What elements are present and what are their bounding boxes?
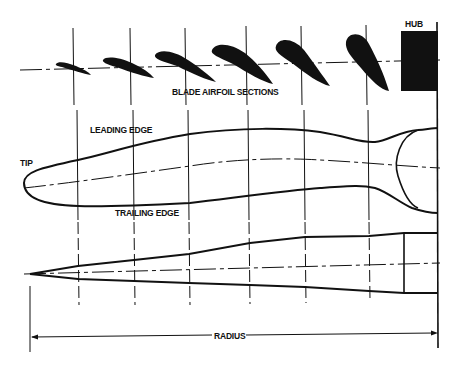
- radius-label: RADIUS: [214, 331, 246, 341]
- leading-edge-curve: [24, 128, 438, 183]
- planform-view: [24, 128, 440, 213]
- propeller-blade-diagram: HUB BLADE AIRFOIL SECTIONS LEADING EDGE …: [0, 0, 462, 367]
- trailing-edge-label: TRAILING EDGE: [115, 208, 180, 218]
- radius-dimension: [30, 286, 438, 352]
- planform-centerline: [24, 159, 440, 188]
- hub-fillet-arc: [396, 130, 418, 208]
- hub-block: [401, 31, 438, 91]
- thickness-upper-edge: [30, 233, 438, 274]
- thickness-view: [24, 233, 440, 293]
- airfoil-section-6: [346, 34, 389, 91]
- leading-edge-label: LEADING EDGE: [90, 125, 153, 135]
- tip-label: TIP: [20, 158, 33, 168]
- radius-dimension-line-right: [246, 333, 434, 335]
- thickness-lower-edge: [30, 274, 438, 293]
- radius-dimension-line-left: [32, 335, 212, 337]
- airfoil-sections-label: BLADE AIRFOIL SECTIONS: [172, 87, 279, 97]
- trailing-edge-curve: [24, 183, 438, 213]
- arrowhead-left-icon: [31, 335, 38, 340]
- arrowhead-right-icon: [431, 331, 438, 336]
- hub-label: HUB: [405, 19, 423, 29]
- airfoil-section-2: [103, 58, 154, 78]
